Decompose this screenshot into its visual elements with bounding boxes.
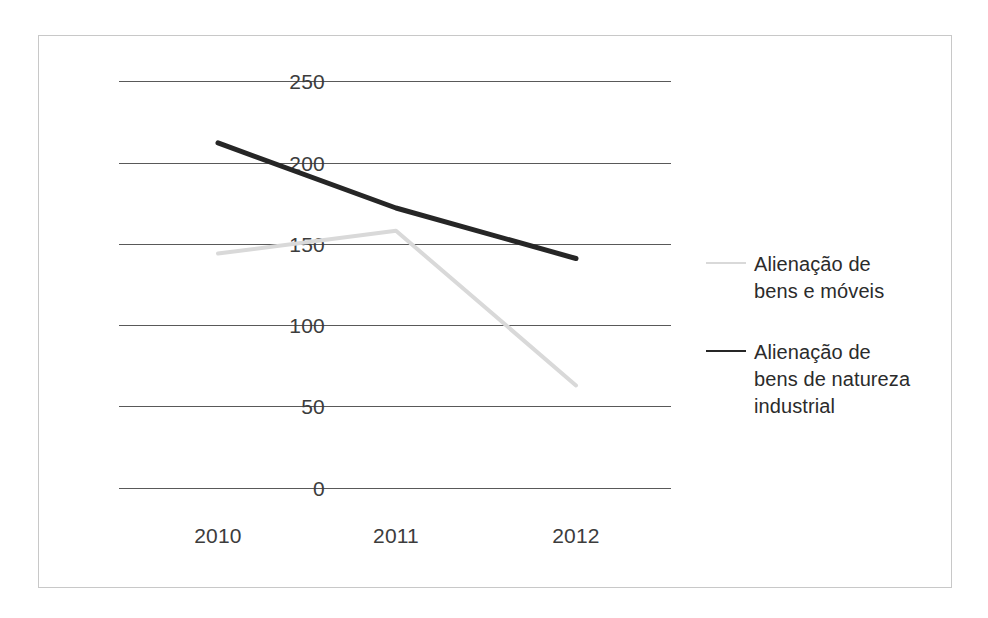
dark-line-swatch-icon (706, 339, 746, 359)
legend-item-alienacao-bens-natureza-industrial[interactable]: Alienação de bens de natureza industrial (706, 339, 946, 420)
x-tick-label-2011: 2011 (336, 525, 456, 546)
chart-frame: 250 200 150 100 50 0 2010 2011 2012 Alie… (38, 35, 952, 588)
chart-figure: 250 200 150 100 50 0 2010 2011 2012 Alie… (0, 0, 988, 618)
legend-item-label: Alienação de bens e móveis (754, 251, 884, 305)
series-line-alienacao-bens-natureza-industrial (218, 143, 576, 259)
x-tick-label-2010: 2010 (158, 525, 278, 546)
light-line-swatch-icon (706, 251, 746, 271)
legend-item-label: Alienação de bens de natureza industrial (754, 339, 910, 420)
x-tick-label-2012: 2012 (516, 525, 636, 546)
legend-item-alienacao-bens-e-moveis[interactable]: Alienação de bens e móveis (706, 251, 946, 305)
series-line-alienacao-bens-e-moveis (218, 231, 576, 386)
chart-legend: Alienação de bens e móveis Alienação de … (706, 251, 946, 454)
plot-area: 250 200 150 100 50 0 2010 2011 2012 Alie… (39, 36, 953, 589)
